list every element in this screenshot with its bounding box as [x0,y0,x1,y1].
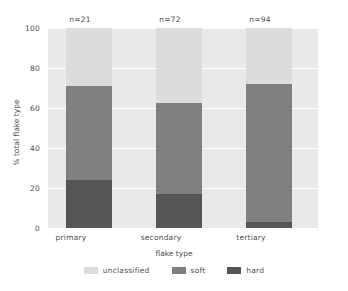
legend-label-hard: hard [246,266,264,275]
chart-legend: unclassifiedsofthard [0,266,348,275]
y-axis-tick-label: 60 [30,104,40,113]
bar-segment-soft-secondary[interactable] [156,103,202,194]
plot-area [48,28,318,228]
x-axis-tick-tertiary: tertiary [206,233,296,242]
bar-count-annotation-tertiary: n=94 [215,15,305,24]
bar-segment-hard-secondary[interactable] [156,194,202,228]
y-axis-tick-label: 80 [30,64,40,73]
stacked-bar-tertiary[interactable] [246,28,292,228]
legend-entry-soft[interactable]: soft [172,266,206,275]
bar-segment-unclassified-secondary[interactable] [156,28,202,103]
y-axis-tick-label: 100 [25,24,40,33]
bar-segment-soft-primary[interactable] [66,86,112,180]
bar-segment-soft-tertiary[interactable] [246,84,292,222]
x-axis-tick-primary: primary [26,233,116,242]
bar-segment-unclassified-primary[interactable] [66,28,112,86]
bar-segment-hard-tertiary[interactable] [246,222,292,228]
x-axis-title: flake type [0,249,348,258]
stacked-bar-primary[interactable] [66,28,112,228]
y-axis-tick-label: 40 [30,144,40,153]
y-axis-tick-labels: 020406080100 [0,0,44,291]
legend-swatch-hard [227,267,241,274]
legend-entry-hard[interactable]: hard [227,266,264,275]
legend-swatch-unclassified [84,267,98,274]
bar-segment-unclassified-tertiary[interactable] [246,28,292,84]
bar-segment-hard-primary[interactable] [66,180,112,228]
legend-label-soft: soft [191,266,206,275]
bar-count-annotation-secondary: n=72 [125,15,215,24]
legend-swatch-soft [172,267,186,274]
chart-figure: % total flake type 020406080100 n=21 n=7… [0,0,348,291]
stacked-bar-secondary[interactable] [156,28,202,228]
legend-label-unclassified: unclassified [103,266,150,275]
bar-count-annotation-primary: n=21 [35,15,125,24]
x-axis-tick-secondary: secondary [116,233,206,242]
legend-entry-unclassified[interactable]: unclassified [84,266,150,275]
y-axis-tick-label: 20 [30,184,40,193]
y-axis-tick-label: 0 [35,224,40,233]
